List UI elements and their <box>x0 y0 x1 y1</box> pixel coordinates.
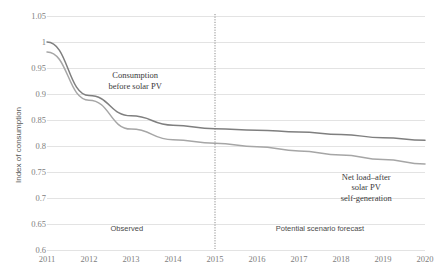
y-tick-label: 1.05 <box>2 12 46 21</box>
x-tick-label: 2018 <box>333 255 350 264</box>
region-label-potential-scenario-forecast: Potential scenario forecast <box>276 224 364 233</box>
x-tick-label: 2013 <box>123 255 140 264</box>
y-tick-label: 0.85 <box>2 116 46 125</box>
y-tick-label: 0.7 <box>2 194 46 203</box>
y-tick-label: 1 <box>2 38 46 47</box>
annotation-consumption-before-solar-pv: Consumption before solar PV <box>109 70 162 91</box>
x-tick-label: 2012 <box>81 255 98 264</box>
series-line-0 <box>47 42 425 140</box>
x-tick-label: 2011 <box>39 255 56 264</box>
gridlines <box>47 16 425 250</box>
region-label-observed: Observed <box>111 224 144 233</box>
x-tick-label: 2015 <box>207 255 224 264</box>
annotation-net-load-after-solar-pv: Net load–after solar PV self-generation <box>333 172 400 204</box>
y-tick-label: 0.9 <box>2 90 46 99</box>
series-line-1 <box>47 52 425 164</box>
x-tick-label: 2017 <box>291 255 308 264</box>
x-tick-label: 2016 <box>249 255 266 264</box>
y-tick-label: 0.8 <box>2 142 46 151</box>
y-tick-label: 0.75 <box>2 168 46 177</box>
x-tick-label: 2014 <box>165 255 182 264</box>
x-tick-label: 2020 <box>417 255 434 264</box>
y-tick-label: 0.65 <box>2 220 46 229</box>
y-axis-tick-labels: 1.05 1 0.95 0.9 0.85 0.8 0.75 0.7 0.65 0… <box>0 0 46 269</box>
y-tick-label: 0.95 <box>2 64 46 73</box>
x-tick-label: 2019 <box>375 255 392 264</box>
